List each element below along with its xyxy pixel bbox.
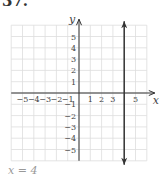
svg-text:−4: −4 [28, 95, 40, 104]
svg-text:3: 3 [71, 55, 76, 64]
svg-text:−1: −1 [64, 100, 76, 109]
coordinate-plane: xy −5−4−3−2−11235−5−4−3−2−112345 [0, 0, 161, 184]
svg-text:−2: −2 [64, 112, 76, 121]
svg-text:1: 1 [88, 95, 93, 104]
svg-text:−2: −2 [51, 95, 63, 104]
svg-text:−5: −5 [17, 95, 29, 104]
svg-text:1: 1 [71, 78, 76, 87]
svg-text:2: 2 [71, 66, 76, 75]
answer-text: x = 4 [8, 164, 37, 177]
svg-text:−4: −4 [64, 134, 76, 143]
svg-text:−5: −5 [64, 146, 76, 155]
svg-text:−3: −3 [39, 95, 51, 104]
svg-text:5: 5 [71, 33, 76, 42]
svg-text:x: x [153, 94, 160, 107]
svg-text:y: y [68, 13, 76, 26]
svg-text:5: 5 [133, 95, 138, 104]
svg-text:−3: −3 [64, 123, 76, 132]
svg-text:3: 3 [110, 95, 115, 104]
svg-text:2: 2 [99, 95, 104, 104]
svg-text:4: 4 [71, 44, 76, 53]
